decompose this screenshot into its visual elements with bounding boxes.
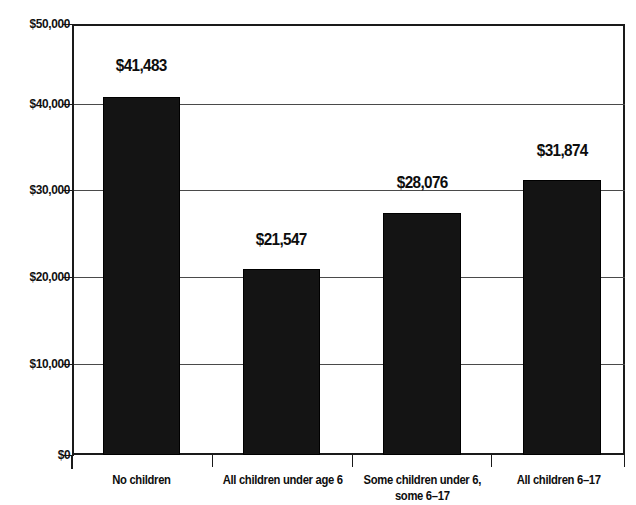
bar-all-children-under-6 [243,269,320,455]
x-tick-2 [352,455,353,467]
y-tick-label-10000: $10,000 [30,357,70,371]
y-tick-label-30000: $30,000 [30,183,70,197]
x-tick-1 [212,455,213,467]
x-tick-4 [624,455,625,467]
value-label-no-children: $41,483 [81,57,202,74]
y-tick-label-40000: $40,000 [30,97,70,111]
value-label-all-children-under-6: $21,547 [221,231,342,248]
category-label-all-children-6-17: All children 6–17 [492,472,625,488]
category-label-some-children-under-6: Some children under 6, some 6–17 [353,472,491,504]
category-label-all-children-under-6: All children under age 6 [213,472,352,488]
bar-chart: $50,000 $40,000 $30,000 $20,000 $10,000 … [0,0,636,505]
value-label-all-children-6-17: $31,874 [501,142,623,159]
x-tick-0 [72,455,73,467]
category-label-no-children: No children [76,472,207,488]
bar-no-children [103,97,180,455]
y-tick-label-0: $0 [57,448,70,462]
bar-all-children-6-17 [523,180,601,455]
x-tick-3 [491,455,492,467]
bar-some-children-under-6 [383,213,461,455]
value-label-some-children-under-6: $28,076 [361,174,483,191]
y-tick-label-50000: $50,000 [30,17,70,31]
y-tick-label-20000: $20,000 [30,270,70,284]
